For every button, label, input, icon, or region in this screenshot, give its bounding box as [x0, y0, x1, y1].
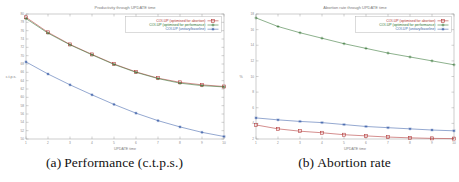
legend-entry-label: COI-UP (unitary/baseline)	[165, 27, 205, 31]
data-point-marker	[179, 125, 182, 128]
x-tick-label: 7	[387, 141, 389, 145]
data-point-marker	[25, 17, 28, 20]
data-point-marker	[343, 123, 346, 126]
y-tick-label: 60	[20, 95, 24, 99]
data-point-marker	[321, 121, 324, 124]
caption-a-label: (a)	[46, 155, 61, 170]
x-tick-label: 1	[25, 141, 27, 145]
x-tick-label: 2	[47, 141, 49, 145]
y-tick-label: 54	[20, 120, 24, 124]
legend-entry-label: COI-UP (unitary/baseline)	[395, 27, 435, 31]
data-point-marker	[255, 16, 258, 19]
data-point-marker	[47, 32, 50, 35]
y-tick-label: 70	[20, 54, 24, 58]
y-tick-label: 18	[250, 12, 254, 16]
x-tick-label: 5	[113, 141, 115, 145]
x-tick-label: 7	[157, 141, 159, 145]
data-point-marker	[365, 125, 368, 128]
x-tick-label: 5	[343, 141, 345, 145]
caption-b: (b)Abortion rate	[298, 156, 391, 170]
data-point-marker	[91, 93, 94, 96]
data-point-marker	[25, 60, 28, 63]
abortion-rate-plot-svg: Abortion rate through UPDATE time2468101…	[230, 0, 459, 157]
data-point-marker	[365, 47, 368, 50]
y-tick-label: 4	[252, 121, 254, 125]
data-point-marker	[387, 52, 390, 55]
data-point-marker	[453, 129, 456, 132]
y-tick-label: 2	[252, 137, 254, 141]
x-tick-label: 10	[222, 141, 226, 145]
y-tick-label: 10	[250, 75, 254, 79]
x-tick-label: 8	[409, 141, 411, 145]
data-point-marker	[212, 28, 215, 31]
data-point-marker	[343, 42, 346, 45]
y-tick-label: 52	[20, 129, 24, 133]
x-tick-label: 6	[135, 141, 137, 145]
data-point-marker	[212, 24, 215, 27]
y-axis-label: %	[239, 75, 243, 79]
y-tick-label: 16	[250, 28, 254, 32]
series-line	[256, 118, 454, 131]
data-point-marker	[299, 120, 302, 123]
x-axis-label: UPDATE time	[114, 147, 136, 151]
data-point-marker	[201, 131, 204, 134]
data-point-marker	[299, 31, 302, 34]
data-series	[255, 116, 456, 132]
y-tick-label: 72	[20, 45, 24, 49]
figure-two-panel: Productivity through UPDATE time50525456…	[0, 0, 459, 182]
data-point-marker	[113, 103, 116, 106]
y-tick-label: 80	[20, 12, 24, 16]
y-tick-label: 64	[20, 79, 24, 83]
x-tick-label: 3	[69, 141, 71, 145]
x-tick-label: 6	[365, 141, 367, 145]
data-series	[25, 60, 226, 138]
x-tick-label: 3	[299, 141, 301, 145]
y-tick-label: 56	[20, 112, 24, 116]
y-tick-label: 78	[20, 20, 24, 24]
chart-legend: COI-UP (optimised for abortion)COI-UP (o…	[356, 17, 452, 33]
chart-performance: Productivity through UPDATE time50525456…	[0, 0, 229, 157]
subfigure-b: Abortion rate through UPDATE time2468101…	[230, 0, 459, 182]
caption-b-label: (b)	[298, 155, 314, 170]
data-point-marker	[255, 116, 258, 119]
data-point-marker	[442, 28, 445, 31]
x-tick-label: 2	[277, 141, 279, 145]
caption-b-text: Abortion rate	[317, 155, 391, 170]
x-tick-label: 4	[321, 141, 323, 145]
x-tick-label: 9	[431, 141, 433, 145]
y-tick-label: 62	[20, 87, 24, 91]
data-point-marker	[453, 63, 456, 66]
performance-plot-svg: Productivity through UPDATE time50525456…	[0, 0, 229, 157]
data-point-marker	[431, 129, 434, 132]
data-point-marker	[277, 118, 280, 121]
y-tick-label: 8	[252, 90, 254, 94]
x-tick-label: 4	[91, 141, 93, 145]
data-point-marker	[321, 37, 324, 40]
y-axis-label: c.t.p.s.	[6, 75, 17, 79]
chart-title: Abortion rate through UPDATE time	[323, 5, 387, 10]
caption-a-text: Performance (c.t.p.s.)	[64, 155, 183, 170]
axes: 5052545658606264666870727476788012345678…	[20, 12, 226, 145]
data-point-marker	[157, 119, 160, 122]
caption-a: (a)Performance (c.t.p.s.)	[46, 156, 183, 170]
y-tick-label: 50	[20, 137, 24, 141]
series-line	[26, 62, 224, 137]
data-series	[255, 123, 456, 140]
data-point-marker	[47, 73, 50, 76]
y-tick-label: 68	[20, 62, 24, 66]
series-line	[256, 125, 454, 139]
data-point-marker	[277, 25, 280, 28]
data-point-marker	[135, 112, 138, 115]
data-point-marker	[431, 59, 434, 62]
data-point-marker	[223, 135, 226, 138]
x-tick-label: 9	[201, 141, 203, 145]
x-tick-label: 1	[255, 141, 257, 145]
chart-title: Productivity through UPDATE time	[94, 5, 156, 10]
chart-abortion-rate: Abortion rate through UPDATE time2468101…	[230, 0, 459, 157]
data-point-marker	[409, 127, 412, 130]
axes: 2468101214161812345678910	[250, 12, 456, 145]
subfigure-a: Productivity through UPDATE time50525456…	[0, 0, 229, 182]
x-tick-label: 8	[179, 141, 181, 145]
x-axis-label: UPDATE time	[344, 147, 366, 151]
y-tick-label: 12	[250, 59, 254, 63]
